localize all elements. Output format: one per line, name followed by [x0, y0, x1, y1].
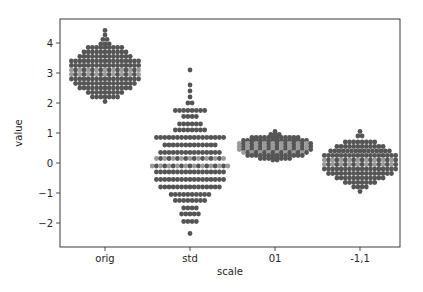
data-point [217, 164, 222, 169]
data-point [221, 164, 226, 169]
data-point [111, 86, 116, 91]
data-point [73, 68, 78, 73]
data-point [90, 77, 95, 82]
data-point [368, 158, 373, 163]
data-point [196, 135, 201, 140]
data-point [103, 54, 108, 59]
data-point [356, 153, 361, 158]
data-point [119, 81, 124, 86]
data-point [200, 170, 205, 175]
data-point [389, 167, 394, 172]
data-point [171, 170, 176, 175]
data-point [377, 167, 382, 172]
data-point [374, 149, 379, 154]
data-point [364, 158, 369, 163]
data-point [115, 63, 120, 68]
data-point [194, 108, 199, 113]
data-point [202, 108, 207, 113]
data-point [358, 189, 363, 194]
data-point [198, 128, 203, 133]
data-point [73, 77, 78, 82]
data-point [101, 37, 106, 42]
data-point [175, 164, 180, 169]
data-point [179, 212, 184, 217]
data-point [194, 219, 199, 224]
data-points [69, 28, 398, 236]
data-point [204, 185, 209, 190]
data-point [158, 156, 163, 161]
data-point [86, 45, 91, 50]
data-point [158, 177, 163, 182]
data-point [372, 158, 377, 163]
data-point [107, 86, 112, 91]
data-point [124, 81, 129, 86]
data-point [124, 63, 129, 68]
data-point [73, 81, 78, 86]
data-point [111, 54, 116, 59]
data-point [181, 219, 186, 224]
data-point [360, 134, 365, 139]
data-point [200, 164, 205, 169]
data-point [115, 86, 120, 91]
data-point [115, 90, 120, 95]
data-point [335, 167, 340, 172]
data-point [181, 128, 186, 133]
data-point [213, 156, 218, 161]
data-point [200, 156, 205, 161]
data-point [183, 177, 188, 182]
data-point [385, 162, 390, 167]
data-point [188, 177, 193, 182]
data-point [90, 90, 95, 95]
data-point [194, 122, 199, 127]
data-point [368, 153, 373, 158]
data-point [107, 95, 112, 100]
data-point [339, 176, 344, 181]
data-point [119, 45, 124, 50]
data-point [188, 164, 193, 169]
data-point [167, 143, 172, 148]
data-point [258, 156, 263, 161]
data-point [335, 158, 340, 163]
data-point [356, 162, 361, 167]
data-point [107, 72, 112, 77]
data-point [90, 81, 95, 86]
data-point [300, 153, 305, 158]
data-point [111, 68, 116, 73]
data-point [179, 164, 184, 169]
data-point [192, 170, 197, 175]
data-point [103, 45, 108, 50]
data-point [322, 162, 327, 167]
data-point [169, 192, 174, 197]
data-point [167, 185, 172, 190]
data-point [337, 149, 342, 154]
data-point [82, 59, 87, 64]
data-point [171, 185, 176, 190]
data-point [188, 135, 193, 140]
data-point [347, 176, 352, 181]
data-point [162, 170, 167, 175]
data-point [82, 81, 87, 86]
data-point [221, 177, 226, 182]
data-point [181, 108, 186, 113]
data-point [167, 156, 172, 161]
data-point [128, 54, 133, 59]
data-point [94, 50, 99, 55]
data-point [162, 135, 167, 140]
data-point [364, 167, 369, 172]
data-point [103, 90, 108, 95]
data-point [192, 143, 197, 148]
data-point [128, 86, 133, 91]
data-point [158, 170, 163, 175]
data-point [372, 167, 377, 172]
data-point [207, 192, 212, 197]
swarm-plot: −2−101234 origstd01-1,1 scale value [0, 0, 423, 292]
data-point [356, 171, 361, 176]
data-point [339, 167, 344, 172]
data-point [389, 162, 394, 167]
data-point [190, 192, 195, 197]
data-point [179, 156, 184, 161]
data-point [171, 143, 176, 148]
data-point [132, 77, 137, 82]
data-point [119, 54, 124, 59]
data-point [356, 134, 361, 139]
